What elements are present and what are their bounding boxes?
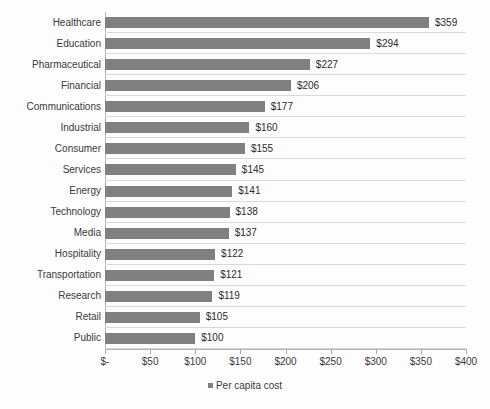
value-axis-ticks: $-$50$100$150$200$250$300$350$400 <box>105 350 467 374</box>
bar-value-label: $100 <box>201 331 223 345</box>
bar-value-label: $119 <box>218 289 240 303</box>
x-axis-tick-label: $350 <box>410 355 432 368</box>
bar-value-label: $121 <box>220 268 242 282</box>
bar[interactable] <box>105 207 230 218</box>
x-axis-tick-label: $- <box>101 355 110 368</box>
category-axis-labels: HealthcareEducationPharmaceuticalFinanci… <box>0 12 101 349</box>
bar-row: $141 <box>105 181 466 202</box>
bar[interactable] <box>105 228 229 239</box>
x-axis-tick-label: $150 <box>229 355 251 368</box>
bar[interactable] <box>105 249 215 260</box>
x-axis-tick-label: $300 <box>365 355 387 368</box>
bar-value-label: $105 <box>206 310 228 324</box>
bar[interactable] <box>105 186 232 197</box>
bar[interactable] <box>105 59 310 70</box>
bar[interactable] <box>105 38 370 49</box>
category-label: Hospitality <box>1 247 101 261</box>
bar-value-label: $206 <box>297 79 319 93</box>
chart-legend: Per capita cost <box>0 379 490 392</box>
category-label: Services <box>1 163 101 177</box>
category-label: Consumer <box>1 142 101 156</box>
bar-row: $119 <box>105 286 466 307</box>
bar-chart: HealthcareEducationPharmaceuticalFinanci… <box>0 0 490 409</box>
category-label: Media <box>1 226 101 240</box>
tick-mark <box>421 350 422 354</box>
bar[interactable] <box>105 270 214 281</box>
bar-value-label: $137 <box>235 226 257 240</box>
bar-row: $227 <box>105 54 466 75</box>
x-axis-tick-label: $100 <box>184 355 206 368</box>
bar-value-label: $359 <box>435 16 457 30</box>
bar[interactable] <box>105 312 200 323</box>
category-label: Public <box>1 331 101 345</box>
x-axis-tick-label: $400 <box>455 355 477 368</box>
bar-row: $177 <box>105 96 466 117</box>
category-label: Financial <box>1 79 101 93</box>
category-label: Healthcare <box>1 16 101 30</box>
tick-mark <box>286 350 287 354</box>
bar-row: $206 <box>105 75 466 96</box>
tick-mark <box>105 350 106 354</box>
x-axis-tick-label: $50 <box>142 355 159 368</box>
bar[interactable] <box>105 143 245 154</box>
category-label: Technology <box>1 205 101 219</box>
bar-row: $121 <box>105 265 466 286</box>
category-label: Communications <box>1 100 101 114</box>
legend-swatch-icon <box>208 383 213 388</box>
legend-label: Per capita cost <box>216 379 282 392</box>
bar[interactable] <box>105 101 265 112</box>
bar-value-label: $155 <box>251 142 273 156</box>
bar-row: $138 <box>105 202 466 223</box>
tick-mark <box>240 350 241 354</box>
bar[interactable] <box>105 333 195 344</box>
bar-row: $155 <box>105 138 466 159</box>
bar[interactable] <box>105 80 291 91</box>
bar-row: $359 <box>105 12 466 33</box>
bar-row: $105 <box>105 307 466 328</box>
bar-row: $294 <box>105 33 466 54</box>
legend-item-per-capita-cost: Per capita cost <box>208 379 282 392</box>
bar-row: $122 <box>105 244 466 265</box>
bar-value-label: $145 <box>242 163 264 177</box>
x-axis-tick-label: $200 <box>274 355 296 368</box>
bar-value-label: $160 <box>255 121 277 135</box>
bar[interactable] <box>105 122 249 133</box>
bar-value-label: $227 <box>316 58 338 72</box>
tick-mark <box>376 350 377 354</box>
category-label: Industrial <box>1 121 101 135</box>
tick-mark <box>150 350 151 354</box>
bar-row: $137 <box>105 223 466 244</box>
tick-mark <box>331 350 332 354</box>
category-label: Transportation <box>1 268 101 282</box>
bar[interactable] <box>105 17 429 28</box>
bar-row: $100 <box>105 328 466 349</box>
tick-mark <box>195 350 196 354</box>
bar-row: $145 <box>105 159 466 180</box>
category-label: Education <box>1 37 101 51</box>
category-label: Energy <box>1 184 101 198</box>
bar-value-label: $294 <box>376 37 398 51</box>
category-label: Pharmaceutical <box>1 58 101 72</box>
plot-area: $359$294$227$206$177$160$155$145$141$138… <box>105 12 466 349</box>
category-label: Research <box>1 289 101 303</box>
bar-value-label: $141 <box>238 184 260 198</box>
bar-value-label: $177 <box>271 100 293 114</box>
bar-value-label: $122 <box>221 247 243 261</box>
x-axis-tick-label: $250 <box>320 355 342 368</box>
bar-value-label: $138 <box>236 205 258 219</box>
bar[interactable] <box>105 291 212 302</box>
bar-row: $160 <box>105 117 466 138</box>
category-label: Retail <box>1 310 101 324</box>
tick-mark <box>466 350 467 354</box>
bar[interactable] <box>105 164 236 175</box>
